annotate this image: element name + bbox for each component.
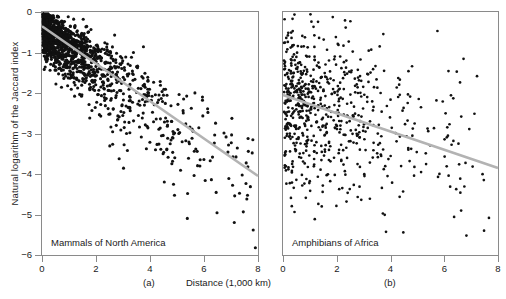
ytick-3 (35, 134, 41, 135)
ytick-label-4: −4 (5, 168, 32, 179)
ytick-0 (35, 12, 41, 13)
ytick-label-2: −2 (5, 87, 32, 98)
xtick-label-a-0: 0 (30, 263, 54, 274)
ytick-1 (35, 53, 41, 54)
ytick-2 (35, 93, 41, 94)
scatter-points (283, 13, 491, 237)
panel-a-title: Mammals of North America (51, 237, 166, 248)
ytick-5 (35, 215, 41, 216)
xtick-b-3 (444, 256, 445, 262)
xtick-label-b-2: 4 (379, 263, 403, 274)
xtick-b-2 (391, 256, 392, 262)
xtick-b-1 (337, 256, 338, 262)
figure-scatter-panels: Natural logarithm of the Jaccard index M… (0, 0, 506, 299)
panel-a-plot-area (41, 11, 259, 256)
x-axis-title: Distance (1,000 km) (186, 277, 271, 288)
xtick-a-1 (96, 256, 97, 262)
ytick-label-1: −1 (5, 47, 32, 58)
xtick-label-a-2: 4 (138, 263, 162, 274)
panel-a-mammals: Mammals of North America (41, 11, 259, 256)
xtick-label-b-3: 6 (432, 263, 456, 274)
y-axis-title: Natural logarithm of the Jaccard index (9, 6, 20, 242)
ytick-6 (35, 255, 41, 256)
xtick-label-b-0: 0 (271, 263, 295, 274)
xtick-label-b-1: 2 (325, 263, 349, 274)
xtick-a-3 (204, 256, 205, 262)
ytick-label-0: 0 (5, 6, 32, 17)
panel-b-sublabel: (b) (384, 277, 396, 288)
xtick-label-a-4: 8 (246, 263, 270, 274)
panel-b-title: Amphibians of Africa (292, 237, 379, 248)
panel-a-sublabel: (a) (143, 277, 155, 288)
xtick-b-0 (283, 256, 284, 262)
xtick-b-4 (498, 256, 499, 262)
xtick-a-4 (258, 256, 259, 262)
xtick-label-a-1: 2 (84, 263, 108, 274)
panel-b-amphibians: Amphibians of Africa (282, 11, 499, 256)
trend-line (42, 26, 258, 176)
xtick-a-2 (150, 256, 151, 262)
xtick-a-0 (42, 256, 43, 262)
ytick-label-3: −3 (5, 128, 32, 139)
ytick-label-6: −6 (5, 249, 32, 260)
ytick-label-5: −5 (5, 209, 32, 220)
ytick-4 (35, 174, 41, 175)
xtick-label-b-4: 8 (486, 263, 506, 274)
xtick-label-a-3: 6 (192, 263, 216, 274)
panel-b-plot-area (282, 11, 499, 256)
